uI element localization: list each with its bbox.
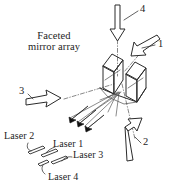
leader-num-4 (124, 11, 138, 20)
beam-number-4: 4 (140, 4, 145, 15)
output-beam-arrows (69, 106, 104, 132)
mirror-prism-left (103, 54, 123, 94)
mirror-prism-right (126, 62, 146, 102)
beam-number-2: 2 (143, 137, 148, 148)
axis-beam-3 (64, 84, 114, 99)
converging-ray-bundle (70, 92, 121, 126)
beam-number-3: 3 (19, 86, 24, 97)
leader-num-2 (135, 137, 141, 143)
laser-label-1: Laser 1 (53, 139, 83, 149)
output-beam-arrow-1 (69, 106, 88, 123)
block-arrow-2 (125, 118, 142, 161)
block-arrow-1 (131, 35, 160, 56)
array-title-line-2: mirror array (12, 42, 96, 53)
block-arrow-3 (26, 90, 61, 107)
laser-bar-4 (38, 160, 49, 166)
array-title: Faceted mirror array (12, 31, 96, 53)
laser-bar-2 (28, 146, 45, 154)
leader-laser-4 (42, 165, 45, 174)
laser-label-2: Laser 2 (4, 131, 34, 141)
leader-laser-2 (27, 143, 31, 151)
block-arrow-4 (110, 5, 125, 41)
faceted-mirror-array-diagram: Faceted mirror array 4 1 3 2 Laser 2 Las… (0, 0, 170, 188)
beam-number-1: 1 (158, 39, 163, 50)
laser-label-4: Laser 4 (48, 172, 78, 182)
laser-label-3: Laser 3 (73, 150, 103, 160)
laser-bar-1 (41, 149, 58, 157)
